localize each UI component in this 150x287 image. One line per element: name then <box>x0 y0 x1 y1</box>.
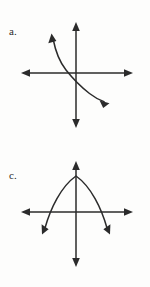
x-axis-a <box>21 69 133 77</box>
x-axis-arrow-right-icon-a <box>124 69 133 77</box>
graph-c-canvas <box>0 144 150 287</box>
y-axis-arrow-down-icon-a <box>72 119 80 128</box>
x-axis-arrow-left-icon-a <box>21 69 30 77</box>
curve-a <box>48 34 109 108</box>
y-axis-arrow-down-icon-c <box>72 258 80 267</box>
y-axis-arrow-up-icon-a <box>72 22 80 31</box>
y-axis-arrow-up-icon-c <box>72 161 80 170</box>
graph-item-a: a. <box>0 0 150 143</box>
x-axis-c <box>21 208 133 216</box>
x-axis-arrow-right-icon-c <box>124 208 133 216</box>
curve-a-path <box>53 40 104 102</box>
graph-a-canvas <box>0 0 150 143</box>
worksheet-page: a. c. <box>0 0 150 287</box>
graph-item-c: c. <box>0 144 150 287</box>
curve-a-arrow-upleft-icon <box>48 34 56 44</box>
y-axis-a <box>72 22 80 128</box>
x-axis-arrow-left-icon-c <box>21 208 30 216</box>
